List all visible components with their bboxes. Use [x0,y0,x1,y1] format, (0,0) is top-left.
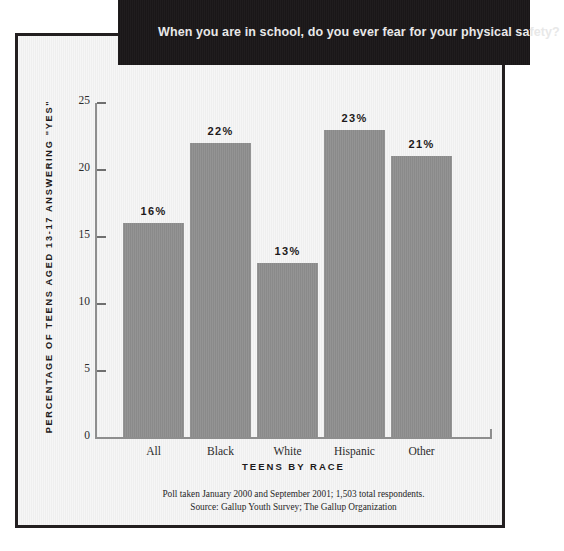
bar-value-all: 16% [140,205,166,217]
y-axis-line [95,103,97,437]
y-tick-15: 15 [97,236,106,238]
bar-value-hispanic: 23% [341,112,367,124]
category-label-white: White [257,445,318,457]
x-axis-endcap [490,429,492,439]
x-axis-line [95,437,492,439]
y-tick-label-15: 15 [79,228,91,240]
plot-area: 25 20 15 10 5 0 16% 22% 13% 23% 21% All … [95,96,492,437]
bar-black[interactable]: 22% [190,143,251,437]
category-label-hispanic: Hispanic [324,445,385,457]
category-label-other: Other [391,445,452,457]
bar-other[interactable]: 21% [391,156,452,437]
x-axis-title: TEENS BY RACE [95,461,492,472]
y-tick-20: 20 [97,169,106,171]
source-note-line-2: Source: Gallup Youth Survey; The Gallup … [95,501,492,514]
y-tick-25: 25 [97,102,106,104]
y-tick-label-25: 25 [79,94,91,106]
chart-title: When you are in school, do you ever fear… [118,25,564,40]
bar-hispanic[interactable]: 23% [324,130,385,437]
category-label-black: Black [190,445,251,457]
bar-value-other: 21% [408,138,434,150]
source-note-line-1: Poll taken January 2000 and September 20… [95,488,492,501]
bar-value-white: 13% [274,245,300,257]
bar-white[interactable]: 13% [257,263,318,437]
y-axis-title: PERCENTAGE OF TEENS AGED 13-17 ANSWERING… [44,96,54,437]
y-tick-label-5: 5 [84,362,90,374]
bar-all[interactable]: 16% [123,223,184,437]
y-tick-label-10: 10 [79,295,91,307]
y-tick-10: 10 [97,303,106,305]
bar-value-black: 22% [207,125,233,137]
title-banner: When you are in school, do you ever fear… [118,0,530,65]
y-tick-5: 5 [97,370,106,372]
source-note: Poll taken January 2000 and September 20… [95,488,492,515]
y-tick-label-0: 0 [84,429,90,441]
category-label-all: All [123,445,184,457]
y-tick-label-20: 20 [79,161,91,173]
